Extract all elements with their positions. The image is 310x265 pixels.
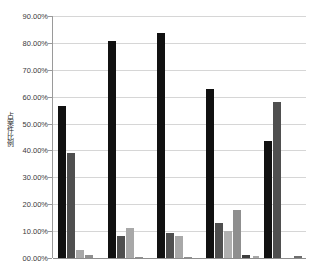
plot-area: [52, 16, 305, 258]
bar: [264, 141, 272, 258]
bar: [253, 256, 259, 258]
bar: [166, 233, 174, 258]
y-tick-label: 20.00%: [2, 200, 48, 209]
y-tick-label: 80.00%: [2, 38, 48, 47]
y-tick-label: 50.00%: [2, 119, 48, 128]
y-tick-label: 60.00%: [2, 92, 48, 101]
y-axis-title: 占案件比例: [2, 112, 14, 147]
bar: [242, 255, 250, 258]
bar: [126, 228, 134, 258]
bar: [85, 255, 93, 258]
bar: [108, 41, 116, 258]
bar: [184, 257, 192, 258]
y-tick-label: 00.00%: [2, 254, 48, 263]
gridline: [53, 70, 306, 71]
bar: [224, 231, 232, 258]
gridline: [53, 43, 306, 44]
gridline: [53, 258, 306, 259]
bar: [206, 89, 214, 258]
bar: [294, 256, 302, 258]
gridline: [53, 97, 306, 98]
gridline: [53, 16, 306, 17]
y-tick-mark: [48, 258, 52, 259]
bar: [58, 106, 66, 258]
bar: [175, 236, 183, 258]
y-tick-label: 70.00%: [2, 65, 48, 74]
y-tick-label: 10.00%: [2, 227, 48, 236]
y-tick-label: 40.00%: [2, 146, 48, 155]
y-tick-label: 90.00%: [2, 12, 48, 21]
bar: [76, 250, 84, 258]
y-tick-label: 30.00%: [2, 173, 48, 182]
bar: [233, 210, 241, 258]
gridline: [53, 124, 306, 125]
bar: [67, 153, 75, 258]
bar: [117, 236, 125, 258]
bar: [215, 223, 223, 258]
bar-chart: 占案件比例 90.00%80.00%70.00%60.00%50.00%40.0…: [0, 0, 310, 265]
bar: [273, 102, 281, 258]
bar: [135, 257, 143, 258]
bar: [157, 33, 165, 258]
